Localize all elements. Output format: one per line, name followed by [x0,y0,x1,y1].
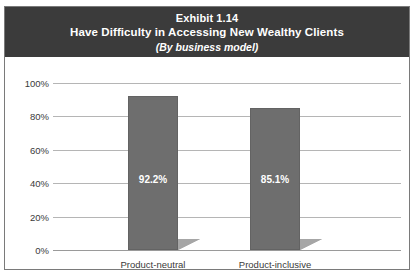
exhibit-number: Exhibit 1.14 [176,11,238,25]
exhibit-title: Have Difficulty in Accessing New Wealthy… [70,25,344,40]
exhibit-subtitle: (By business model) [156,40,259,54]
category-labels-group: Product-neutralProduct-inclusive [5,57,409,269]
exhibit-title-band: Exhibit 1.14 Have Difficulty in Accessin… [5,7,409,57]
chart-plot-area: 0%20%40%60%80%100% 92.2%85.1% Product-ne… [5,57,409,269]
x-axis-category-label: Product-inclusive [239,259,311,270]
x-axis-category-label: Product-neutral [121,259,186,270]
exhibit-panel: Exhibit 1.14 Have Difficulty in Accessin… [4,6,410,270]
